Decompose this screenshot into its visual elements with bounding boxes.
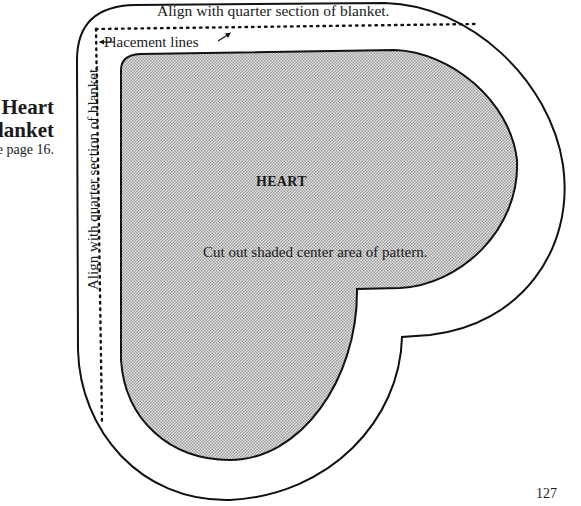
- cut-instruction: Cut out shaded center area of pattern.: [203, 244, 428, 261]
- top-align-instruction: Align with quarter section of blanket.: [157, 2, 389, 20]
- page-number: 127: [536, 486, 557, 502]
- shape-label: HEART: [256, 174, 307, 190]
- left-align-instruction: Align with quarter section of blanket.: [85, 65, 102, 290]
- placement-lines-label: Placement lines: [104, 34, 199, 51]
